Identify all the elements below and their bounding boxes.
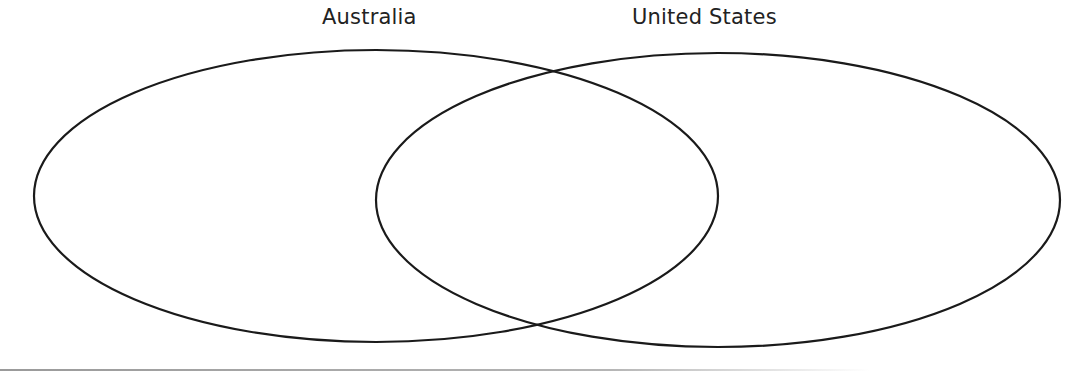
page-bottom-divider — [0, 369, 870, 371]
australia-label: Australia — [322, 5, 417, 29]
united-states-label: United States — [632, 5, 777, 29]
venn-diagram — [0, 0, 1090, 372]
